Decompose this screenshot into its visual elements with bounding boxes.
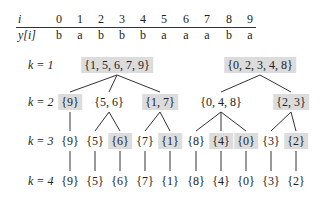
value-cell: b bbox=[140, 28, 146, 42]
index-cell: 6 bbox=[183, 12, 189, 26]
index-cell: 1 bbox=[77, 12, 83, 26]
row-label-i: i bbox=[18, 12, 21, 26]
set-node-highlighted: {1, 5, 6, 7, 9} bbox=[81, 57, 153, 73]
value-cell: a bbox=[247, 28, 252, 42]
set-node: {2} bbox=[284, 173, 308, 189]
value-cell: b bbox=[226, 28, 232, 42]
set-node: {6} bbox=[108, 173, 132, 189]
set-node: {1} bbox=[158, 173, 182, 189]
set-node: {5} bbox=[83, 133, 107, 149]
set-node-highlighted: {0} bbox=[234, 133, 258, 149]
set-node: {7} bbox=[133, 133, 157, 149]
tree-edge bbox=[160, 112, 170, 131]
tree-edge bbox=[109, 112, 120, 131]
value-cell: a bbox=[183, 28, 188, 42]
set-node: {0} bbox=[234, 173, 258, 189]
set-node-highlighted: {0, 2, 3, 4, 8} bbox=[224, 57, 296, 73]
index-cell: 5 bbox=[161, 12, 167, 26]
level-label: k = 2 bbox=[28, 95, 53, 109]
tree-edge bbox=[260, 75, 291, 92]
set-node-highlighted: {2, 3} bbox=[273, 94, 309, 110]
tree-edge bbox=[196, 112, 221, 131]
set-node-highlighted: {1, 7} bbox=[142, 94, 178, 110]
tree-edge bbox=[145, 112, 160, 131]
set-node: {3} bbox=[259, 133, 283, 149]
value-cell: b bbox=[119, 28, 125, 42]
level-label: k = 3 bbox=[28, 134, 53, 148]
index-cell: 8 bbox=[226, 12, 232, 26]
tree-edge bbox=[117, 75, 160, 92]
value-cell: b bbox=[56, 28, 62, 42]
tree-edge bbox=[271, 112, 291, 131]
value-cell: b bbox=[98, 28, 104, 42]
level-label: k = 1 bbox=[28, 58, 53, 72]
set-node: {9} bbox=[58, 133, 82, 149]
index-cell: 0 bbox=[56, 12, 62, 26]
set-node: {5} bbox=[83, 173, 107, 189]
set-node: {7} bbox=[133, 173, 157, 189]
set-node: {4} bbox=[209, 173, 233, 189]
index-cell: 9 bbox=[247, 12, 253, 26]
set-node: {0, 4, 8} bbox=[197, 94, 245, 110]
set-node: {9} bbox=[58, 173, 82, 189]
set-node: {5, 6} bbox=[91, 94, 127, 110]
set-node-highlighted: {6} bbox=[108, 133, 132, 149]
index-cell: 4 bbox=[140, 12, 146, 26]
level-label: k = 4 bbox=[28, 174, 53, 188]
set-node-highlighted: {1} bbox=[158, 133, 182, 149]
index-cell: 3 bbox=[119, 12, 125, 26]
value-cell: a bbox=[161, 28, 166, 42]
set-node: {8} bbox=[184, 133, 208, 149]
set-node: {8} bbox=[184, 173, 208, 189]
set-node-highlighted: {4} bbox=[209, 133, 233, 149]
tree-edge bbox=[95, 112, 109, 131]
table-divider bbox=[16, 27, 256, 28]
value-cell: a bbox=[77, 28, 82, 42]
tree-edge bbox=[291, 112, 296, 131]
value-cell: a bbox=[204, 28, 209, 42]
row-label-y: y[i] bbox=[18, 28, 36, 42]
set-node: {3} bbox=[259, 173, 283, 189]
index-cell: 2 bbox=[98, 12, 104, 26]
set-node-highlighted: {2} bbox=[284, 133, 308, 149]
set-node-highlighted: {9} bbox=[58, 94, 82, 110]
tree-edge bbox=[221, 112, 246, 131]
index-cell: 7 bbox=[204, 12, 210, 26]
tree-edge bbox=[221, 75, 260, 92]
